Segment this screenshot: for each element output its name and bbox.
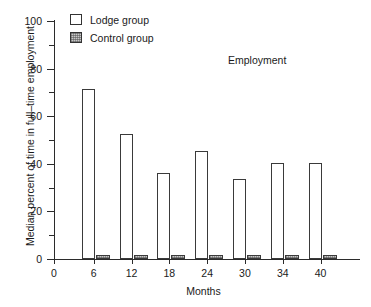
bar-control-group	[209, 255, 223, 259]
x-tick-label: 34	[268, 268, 298, 279]
x-tick	[94, 259, 95, 264]
y-tick-label: 100	[16, 16, 42, 27]
bar-lodge-group	[309, 163, 322, 259]
bar-control-group	[323, 255, 337, 259]
x-tick-label: 40	[306, 268, 336, 279]
bar-lodge-group	[120, 134, 133, 259]
plot-area	[54, 21, 359, 259]
y-tick-label: 20	[16, 206, 42, 217]
x-tick	[169, 259, 170, 264]
y-tick-label: 0	[16, 254, 42, 265]
x-tick-label: 0	[39, 268, 69, 279]
x-tick-label: 30	[230, 268, 260, 279]
bar-lodge-group	[195, 151, 208, 259]
y-tick-major	[47, 69, 54, 70]
x-tick	[132, 259, 133, 264]
bar-control-group	[134, 255, 148, 259]
bar-lodge-group	[157, 173, 170, 259]
y-tick-label: 60	[16, 111, 42, 122]
y-tick-label: 40	[16, 159, 42, 170]
bar-lodge-group	[233, 179, 246, 259]
x-tick-label: 12	[117, 268, 147, 279]
bar-control-group	[171, 255, 185, 259]
x-tick	[321, 259, 322, 264]
y-tick-major	[47, 211, 54, 212]
bar-control-group	[96, 255, 110, 259]
x-tick-label: 18	[154, 268, 184, 279]
x-tick	[207, 259, 208, 264]
bar-lodge-group	[82, 89, 95, 259]
x-tick-label: 6	[79, 268, 109, 279]
x-tick	[54, 259, 55, 264]
x-tick	[245, 259, 246, 264]
y-tick-major	[47, 259, 54, 260]
x-axis-title: Months	[0, 285, 371, 297]
x-tick-label: 24	[192, 268, 222, 279]
bar-lodge-group	[271, 163, 284, 259]
y-tick-label: 80	[16, 64, 42, 75]
y-tick-major	[47, 21, 54, 22]
bar-control-group	[247, 255, 261, 259]
x-tick	[283, 259, 284, 264]
bar-control-group	[285, 255, 299, 259]
x-axis-title-text: Months	[186, 285, 220, 297]
bar-chart: Lodge group Control group Employment Med…	[0, 0, 371, 307]
y-tick-major	[47, 116, 54, 117]
y-axis-title: Median percent of time in full–time empl…	[24, 11, 36, 261]
y-tick-major	[47, 164, 54, 165]
